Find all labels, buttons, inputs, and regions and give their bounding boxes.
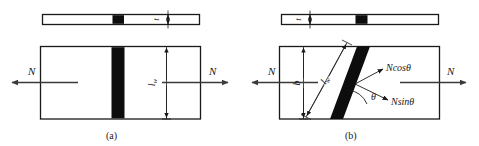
welded-joint-figure: t lw N N (a) t b lw θ Ncosθ Nsinθ N N (b… [0,0,479,146]
panel-b-force-left-label: N [268,66,275,77]
panel-b-plan-bar [282,15,439,25]
panel-b-thickness-label: t [294,18,303,21]
panel-a-caption: (a) [106,130,117,141]
panel-a-thickness-label: t [152,18,161,21]
panel-b-angle-label: θ [371,92,376,102]
panel-a-plan-bar [43,15,200,25]
panel-b-normal-component-label: Ncosθ [386,63,411,73]
panel-b-width-label: b [292,81,302,86]
panel-b-force-right-label: N [447,66,454,77]
panel-b-caption: (b) [345,130,357,141]
figure-linework [0,0,479,146]
panel-b-shear-component-label: Nsinθ [391,97,414,107]
panel-a-force-left-label: N [28,66,35,77]
panel-a-force-right-label: N [209,66,216,77]
panel-a-weld-length-label: lw [147,79,158,86]
